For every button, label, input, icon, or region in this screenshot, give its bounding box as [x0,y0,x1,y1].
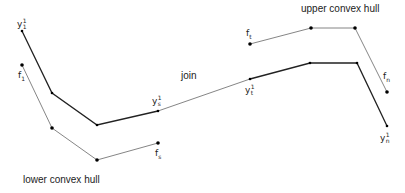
join-label: join [181,71,197,81]
y-lower-hull-line [22,31,158,125]
hull-point [50,126,54,130]
hull-point [156,141,160,145]
label-f1: f1 [18,71,25,82]
label-ft: ft [246,29,252,40]
hull-point [249,78,252,81]
upper-convex-hull-label: upper convex hull [301,4,379,14]
label-yn: y1n [380,132,390,144]
join-line [158,79,250,111]
label-ys: y1s [152,95,162,107]
label-yt: y1t [245,84,255,96]
label-fs: fs [155,149,161,160]
convex-hull-diagram [0,0,405,193]
hull-point [96,124,99,127]
hull-point [309,26,313,30]
hull-point [95,158,99,162]
lower-convex-hull-label: lower convex hull [23,175,100,185]
hull-point [353,26,357,30]
hull-point [21,30,24,33]
hull-point [20,63,24,67]
f-lower-hull-line [22,65,158,160]
label-y1: y11 [17,18,27,30]
hull-point [248,42,252,46]
hull-point [51,92,54,95]
hull-point [157,110,160,113]
hull-point [309,62,312,65]
label-fn: fn [383,72,390,83]
hull-point [386,125,389,128]
hull-points [20,26,389,162]
hull-point [385,90,389,94]
y-upper-hull-line [250,63,387,126]
hull-point [356,62,359,65]
